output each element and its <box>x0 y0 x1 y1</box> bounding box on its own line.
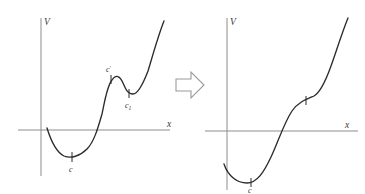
left-label-c-prime: c' <box>106 65 112 74</box>
left-x-axis-label: x <box>166 119 172 129</box>
right-plot-svg: V x c <box>185 0 365 194</box>
right-x-axis-label: x <box>344 120 350 130</box>
figure-container: V x c c' c1 V x c <box>0 0 365 194</box>
right-label-c: c <box>248 186 252 194</box>
chart-panel-right: V x c <box>185 0 365 194</box>
chart-panel-left: V x c c' c1 <box>0 0 185 194</box>
left-label-c-one: c1 <box>125 101 132 111</box>
left-label-c: c <box>69 165 73 174</box>
right-y-axis-label: V <box>230 17 237 27</box>
left-label-c-prime-sup: ' <box>110 65 112 71</box>
left-y-axis-label: V <box>44 17 51 27</box>
left-plot-svg: V x c c' c1 <box>0 0 185 194</box>
left-potential-curve <box>47 21 164 157</box>
right-potential-curve <box>224 18 348 183</box>
left-label-c-one-sub: 1 <box>129 105 132 111</box>
